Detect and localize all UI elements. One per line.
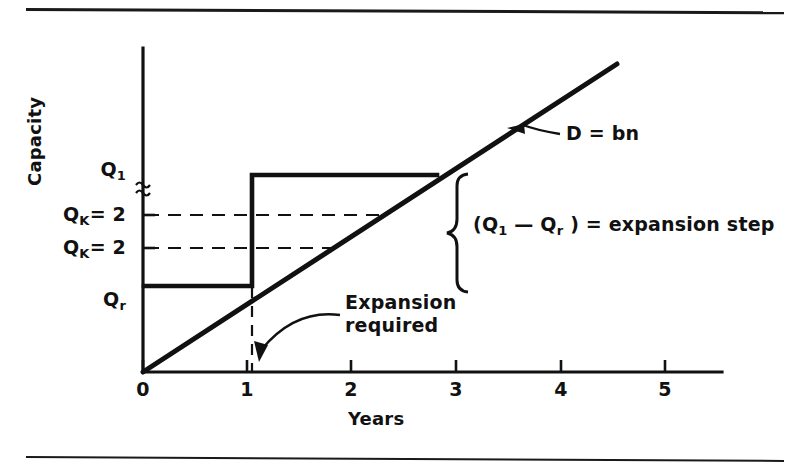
y-axis-title: Capacity — [24, 76, 45, 186]
y-label-qk-upper-value: = 2 — [90, 203, 126, 225]
y-label-qk-lower: QK= 2 — [48, 236, 126, 258]
expansion-step-brace — [447, 174, 468, 292]
annotation-expansion-required-line1: Expansion — [345, 291, 456, 314]
x-tick-label-3: 3 — [441, 378, 471, 400]
y-label-qk-upper: QK= 2 — [48, 203, 126, 225]
y-label-q1-subscript: 1 — [117, 168, 126, 183]
annotation-expansion-required: Expansion required — [345, 291, 456, 337]
annotation-expansion-step: (Q1 — Qr ) = expansion step — [473, 213, 775, 235]
x-axis-title: Years — [348, 408, 404, 429]
annotation-expansion-step-sub2: r — [557, 223, 564, 238]
annotation-expansion-step-sub1: 1 — [498, 223, 507, 238]
y-axis-ticks — [143, 215, 155, 248]
y-label-q1-base: Q — [100, 158, 116, 180]
x-tick-label-0: 0 — [128, 378, 158, 400]
annotation-expansion-required-line2: required — [345, 314, 456, 337]
annotation-expansion-step-close: ) = expansion step — [563, 213, 774, 235]
y-label-qk-lower-base: Q — [63, 236, 79, 258]
y-label-qr-base: Q — [103, 288, 119, 310]
x-tick-label-4: 4 — [546, 378, 576, 400]
x-axis-ticks — [143, 360, 665, 372]
x-tick-label-5: 5 — [650, 378, 680, 400]
y-label-qk-upper-subscript: K — [79, 213, 89, 228]
capacity-step-line — [144, 175, 437, 286]
y-label-qr-subscript: r — [119, 298, 126, 313]
y-label-q1: Q1 — [78, 158, 126, 180]
y-label-qr: Qr — [78, 288, 126, 310]
expansion-required-leader-arrow — [254, 314, 340, 362]
annotation-expansion-step-minus: — Q — [508, 213, 557, 235]
x-tick-label-2: 2 — [336, 378, 366, 400]
figure-container: 0 1 2 3 4 5 Years Capacity Q1 QK= 2 QK= … — [0, 0, 791, 472]
annotation-demand-line: D = bn — [566, 122, 639, 144]
y-label-qk-lower-subscript: K — [79, 246, 89, 261]
y-label-qk-lower-value: = 2 — [90, 236, 126, 258]
annotation-expansion-step-open: (Q — [473, 213, 498, 235]
y-label-qk-upper-base: Q — [63, 203, 79, 225]
x-tick-label-1: 1 — [232, 378, 262, 400]
